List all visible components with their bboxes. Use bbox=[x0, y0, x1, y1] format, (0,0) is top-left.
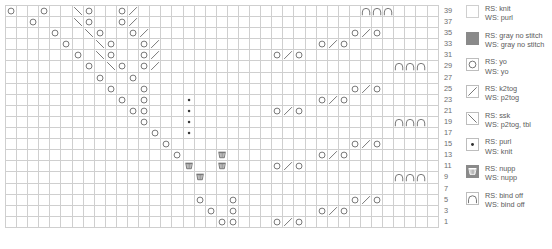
stitch-cell bbox=[283, 205, 294, 216]
stitch-cell bbox=[283, 183, 294, 194]
stitch-cell bbox=[272, 6, 283, 17]
stitch-cell bbox=[227, 39, 238, 50]
legend-rs-text: RS: purl bbox=[485, 137, 512, 146]
stitch-cell bbox=[294, 72, 305, 83]
stitch-cell bbox=[261, 17, 272, 28]
stitch-cell bbox=[305, 94, 316, 105]
stitch-cell bbox=[238, 205, 249, 216]
row-number: 7 bbox=[444, 183, 462, 194]
cell-symbol bbox=[217, 217, 227, 227]
row-number: 9 bbox=[444, 171, 462, 182]
cell-symbol bbox=[184, 161, 194, 171]
stitch-cell bbox=[372, 17, 383, 28]
stitch-cell bbox=[238, 17, 249, 28]
stitch-cell bbox=[250, 139, 261, 150]
no-stitch-cell bbox=[28, 61, 39, 72]
stitch-cell bbox=[305, 205, 316, 216]
knitting-chart-page: 39373533312927252321191715131197531 RS: … bbox=[0, 0, 552, 249]
stitch-cell bbox=[128, 50, 139, 61]
no-stitch-cell bbox=[28, 150, 39, 161]
cell-symbol bbox=[139, 106, 149, 116]
stitch-cell bbox=[172, 72, 183, 83]
no-stitch-cell bbox=[61, 128, 72, 139]
legend-label: RS: k2togWS: p2tog bbox=[485, 84, 519, 102]
stitch-cell bbox=[250, 172, 261, 183]
stitch-cell bbox=[216, 128, 227, 139]
stitch-cell bbox=[316, 61, 327, 72]
no-stitch-cell bbox=[139, 205, 150, 216]
cell-symbol bbox=[372, 139, 382, 149]
stitch-cell bbox=[316, 6, 327, 17]
cell-symbol bbox=[317, 206, 327, 216]
stitch-cell bbox=[394, 50, 405, 61]
cell-symbol bbox=[84, 6, 94, 16]
stitch-cell bbox=[216, 205, 227, 216]
stitch-cell bbox=[261, 50, 272, 61]
chart-row bbox=[6, 139, 439, 150]
stitch-cell bbox=[261, 83, 272, 94]
no-stitch-cell bbox=[61, 161, 72, 172]
no-stitch-cell bbox=[17, 105, 28, 116]
stitch-cell bbox=[283, 128, 294, 139]
no-stitch-cell bbox=[61, 94, 72, 105]
no-stitch-cell bbox=[50, 50, 61, 61]
stitch-cell bbox=[261, 150, 272, 161]
stitch-cell bbox=[161, 50, 172, 61]
no-stitch-cell bbox=[61, 172, 72, 183]
stitch-cell bbox=[283, 83, 294, 94]
no-stitch-cell bbox=[6, 17, 17, 28]
no-stitch-cell bbox=[116, 172, 127, 183]
cell-symbol bbox=[139, 84, 149, 94]
stitch-cell bbox=[150, 61, 161, 72]
stitch-cell bbox=[394, 72, 405, 83]
cell-symbol bbox=[95, 28, 105, 38]
cell-symbol bbox=[383, 6, 393, 16]
stitch-cell bbox=[383, 6, 394, 17]
cell-symbol bbox=[95, 39, 105, 49]
stitch-cell bbox=[349, 83, 360, 94]
cell-symbol bbox=[405, 172, 415, 182]
legend-item: RS: k2togWS: p2tog bbox=[466, 84, 552, 111]
legend-ws-text: WS: gray no stitch bbox=[485, 40, 544, 49]
no-stitch-cell bbox=[349, 105, 360, 116]
stitch-cell bbox=[139, 105, 150, 116]
stitch-cell bbox=[61, 28, 72, 39]
no-stitch-cell bbox=[83, 128, 94, 139]
no-stitch-cell bbox=[50, 94, 61, 105]
stitch-cell bbox=[294, 116, 305, 127]
no-stitch-cell bbox=[28, 128, 39, 139]
no-stitch-cell bbox=[39, 105, 50, 116]
stitch-cell bbox=[94, 39, 105, 50]
no-stitch-cell bbox=[61, 116, 72, 127]
stitch-cell bbox=[305, 183, 316, 194]
stitch-cell bbox=[6, 6, 17, 17]
row-number: 19 bbox=[444, 116, 462, 127]
stitch-cell bbox=[272, 116, 283, 127]
no-stitch-cell bbox=[17, 72, 28, 83]
stitch-cell bbox=[361, 116, 372, 127]
stitch-cell bbox=[372, 150, 383, 161]
stitch-cell bbox=[94, 72, 105, 83]
stitch-cell bbox=[283, 139, 294, 150]
no-stitch-cell bbox=[50, 39, 61, 50]
stitch-cell bbox=[327, 194, 338, 205]
stitch-cell bbox=[194, 94, 205, 105]
stitch-cell bbox=[238, 105, 249, 116]
stitch-cell bbox=[283, 116, 294, 127]
stitch-cell bbox=[427, 139, 438, 150]
stitch-cell bbox=[238, 150, 249, 161]
stitch-cell bbox=[205, 39, 216, 50]
stitch-cell bbox=[361, 28, 372, 39]
no-stitch-cell bbox=[94, 83, 105, 94]
no-stitch-cell bbox=[128, 128, 139, 139]
stitch-cell bbox=[349, 72, 360, 83]
stitch-cell bbox=[205, 116, 216, 127]
legend-ws-text: WS: purl bbox=[485, 13, 513, 22]
row-number: 37 bbox=[444, 16, 462, 27]
cell-symbol bbox=[139, 61, 149, 71]
no-stitch-cell bbox=[83, 216, 94, 227]
stitch-cell bbox=[305, 17, 316, 28]
stitch-cell bbox=[416, 6, 427, 17]
stitch-cell bbox=[28, 6, 39, 17]
no-stitch-cell bbox=[39, 39, 50, 50]
